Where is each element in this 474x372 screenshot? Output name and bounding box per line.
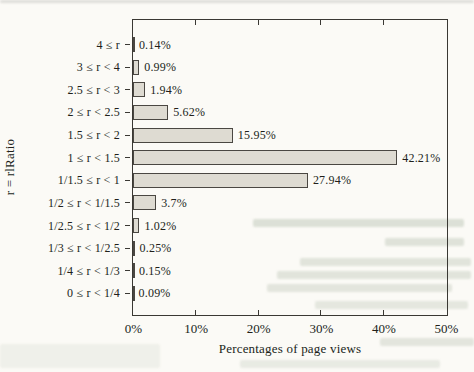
x-tick-top	[320, 20, 321, 25]
x-tick-label: 0%	[110, 321, 158, 337]
x-tick-label: 40%	[360, 321, 408, 337]
value-label: 0.15%	[139, 263, 171, 278]
category-label: 2 ≤ r < 2.5	[0, 105, 120, 120]
value-label: 0.09%	[139, 286, 171, 301]
bar	[133, 218, 139, 233]
category-label: 2.5 ≤ r < 3	[0, 82, 120, 97]
value-label: 42.21%	[402, 150, 440, 165]
category-label: 1/2.5 ≤ r < 1/2	[0, 218, 120, 233]
scan-noise-top	[0, 0, 474, 3]
x-tick-label: 50%	[423, 321, 471, 337]
category-label: 1/4 ≤ r < 1/3	[0, 263, 120, 278]
category-label: 4 ≤ r	[0, 37, 120, 52]
bar	[133, 263, 135, 278]
value-label: 0.99%	[144, 60, 176, 75]
y-tick	[125, 44, 130, 45]
y-tick	[125, 225, 130, 226]
x-tick-bottom	[320, 310, 321, 315]
category-label: 1/2 ≤ r < 1/1.5	[0, 195, 120, 210]
y-tick	[125, 180, 130, 181]
plot-area: 4 ≤ r0.14%3 ≤ r < 40.99%2.5 ≤ r < 31.94%…	[132, 19, 448, 316]
y-tick	[125, 67, 130, 68]
x-tick-top	[258, 20, 259, 25]
bar	[133, 195, 156, 210]
value-label: 1.94%	[150, 82, 182, 97]
y-tick	[125, 112, 130, 113]
bar	[133, 105, 168, 120]
value-label: 0.25%	[140, 241, 172, 256]
y-tick	[125, 270, 130, 271]
y-tick	[125, 202, 130, 203]
x-tick-label: 20%	[235, 321, 283, 337]
bleedthrough-artifact	[240, 360, 440, 368]
bar	[133, 82, 145, 97]
category-label: 1/1.5 ≤ r < 1	[0, 173, 120, 188]
bar	[133, 37, 135, 52]
x-tick-bottom	[195, 310, 196, 315]
category-label: 0 ≤ r < 1/4	[0, 286, 120, 301]
x-tick-bottom	[258, 310, 259, 315]
value-label: 5.62%	[173, 105, 205, 120]
value-label: 0.14%	[139, 37, 171, 52]
y-tick	[125, 135, 130, 136]
x-tick-bottom	[383, 310, 384, 315]
bar	[133, 128, 233, 143]
category-label: 1/3 ≤ r < 1/2.5	[0, 241, 120, 256]
y-tick	[125, 157, 130, 158]
x-axis-title: Percentages of page views	[132, 341, 448, 357]
category-label: 1.5 ≤ r < 2	[0, 128, 120, 143]
bar	[133, 286, 135, 301]
value-label: 3.7%	[161, 195, 187, 210]
y-tick	[125, 293, 130, 294]
bar	[133, 241, 135, 256]
x-tick-label: 30%	[297, 321, 345, 337]
bar-chart-figure: r = rlRatio 4 ≤ r0.14%3 ≤ r < 40.99%2.5 …	[0, 0, 474, 372]
category-label: 3 ≤ r < 4	[0, 60, 120, 75]
value-label: 15.95%	[238, 128, 276, 143]
x-tick-top	[383, 20, 384, 25]
category-label: 1 ≤ r < 1.5	[0, 150, 120, 165]
y-tick	[125, 248, 130, 249]
x-tick-label: 10%	[172, 321, 220, 337]
bar	[133, 60, 139, 75]
bar	[133, 150, 397, 165]
bar	[133, 173, 308, 188]
value-label: 1.02%	[144, 218, 176, 233]
value-label: 27.94%	[313, 173, 351, 188]
x-tick-top	[195, 20, 196, 25]
y-tick	[125, 89, 130, 90]
